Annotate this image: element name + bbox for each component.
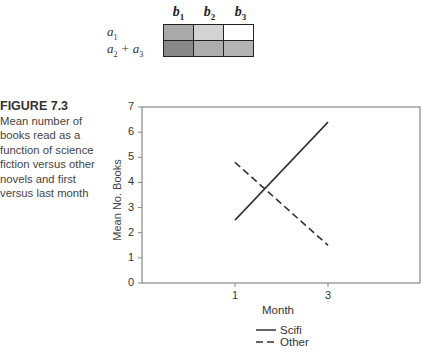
legend-label: Scifi [280,324,302,336]
plot-frame [142,107,420,283]
legend-item-scifi: Scifi [256,324,302,336]
series-line-scifi [235,122,328,220]
x-axis-label: Month [250,304,306,316]
series-lines [235,122,328,245]
tick-marks [138,107,328,287]
solid-line-icon [256,327,276,333]
legend-item-other: Other [256,336,309,348]
line-chart [0,0,442,362]
legend-label: Other [280,336,309,348]
dashed-line-icon [256,339,276,345]
series-line-other [235,162,328,245]
